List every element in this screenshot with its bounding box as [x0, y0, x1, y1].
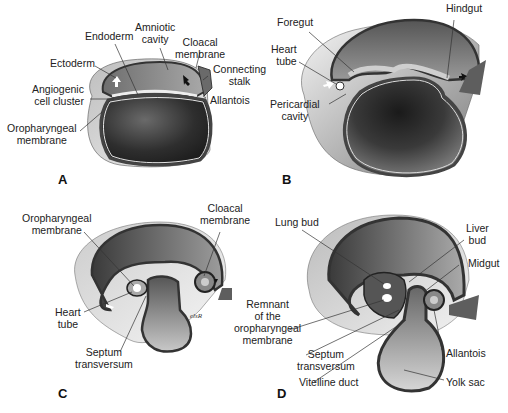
- panel-letter-a: A: [58, 172, 67, 187]
- label-liver-bud: Liver bud: [466, 222, 489, 246]
- label-ectoderm: Ectoderm: [50, 57, 95, 69]
- label-oropharyngeal-membrane: Oropharyngeal membrane: [22, 212, 91, 236]
- label-endoderm: Endoderm: [85, 30, 133, 42]
- label-angiogenic-cell-cluster: Angiogenic cell cluster: [32, 83, 84, 107]
- label-amniotic-cavity: Amniotic cavity: [135, 21, 175, 45]
- panel-letter-c: C: [58, 386, 67, 401]
- label-lung-bud: Lung bud: [275, 216, 319, 228]
- panel-d: Lung bud Liver bud Midgut Remnant of the…: [254, 200, 508, 405]
- panel-letter-d: D: [277, 386, 286, 401]
- label-oropharyngeal-membrane: Oropharyngeal membrane: [7, 122, 76, 146]
- label-hindgut: Hindgut: [446, 2, 482, 14]
- label-pericardial-cavity: Pericardial cavity: [270, 98, 320, 122]
- label-yolk-sac: Yolk sac: [446, 376, 485, 388]
- label-allantois: Allantois: [446, 347, 486, 359]
- label-cloacal-membrane: Cloacal membrane: [200, 202, 250, 226]
- label-vitelline-duct: Vitelline duct: [299, 376, 358, 388]
- label-septum-transversum: Septum transversum: [75, 346, 133, 370]
- label-heart-tube: Heart tube: [271, 43, 297, 67]
- panel-letter-b: B: [282, 172, 291, 187]
- label-allantois: Allantois: [210, 94, 250, 106]
- artist-signature: elsR: [190, 312, 203, 320]
- label-septum-transversum: Septum transversum: [297, 348, 355, 372]
- label-heart-tube: Heart tube: [55, 306, 81, 330]
- label-cloacal-membrane: Cloacal membrane: [175, 36, 225, 60]
- label-midgut: Midgut: [468, 257, 500, 269]
- label-foregut: Foregut: [277, 16, 313, 28]
- panel-c: elsR Oropharyngeal membrane Cloacal memb…: [0, 200, 254, 405]
- panel-a: Endoderm Amniotic cavity Cloacal membran…: [0, 0, 254, 200]
- label-remnant-oropharyngeal-membrane: Remnant of the oropharyngeal membrane: [234, 298, 301, 346]
- panel-b: Foregut Hindgut Heart tube Pericardial c…: [254, 0, 508, 200]
